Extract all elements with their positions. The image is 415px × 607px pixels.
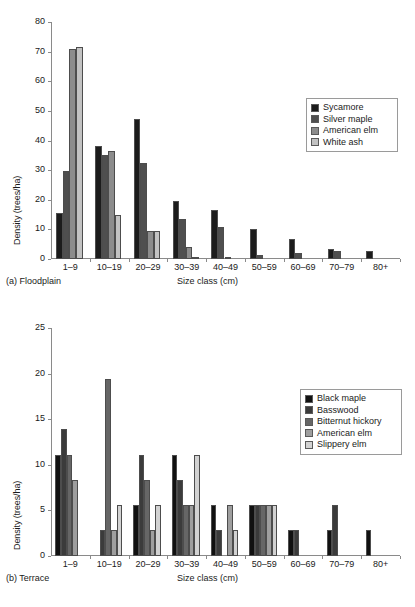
y-tick-label: 70 — [15, 46, 45, 56]
y-tick-mark — [48, 328, 51, 329]
legend-swatch-icon — [311, 138, 319, 146]
bar — [56, 213, 63, 259]
legend-b: Black mapleBasswoodBitternut hickoryAmer… — [300, 389, 402, 455]
legend-swatch-icon — [305, 395, 313, 403]
bar — [211, 210, 218, 259]
y-tick-label: 25 — [15, 322, 45, 332]
y-tick-mark — [48, 510, 51, 511]
bar — [295, 253, 302, 259]
y-axis-title-a: Density (trees/ha) — [12, 176, 22, 245]
y-tick-label: 15 — [15, 413, 45, 423]
x-tick-mark — [400, 259, 401, 262]
y-tick-label: 60 — [15, 75, 45, 85]
bar — [332, 505, 338, 556]
legend-item: Bitternut hickory — [305, 416, 396, 428]
y-axis-title-b: Density (trees/ha) — [12, 481, 22, 550]
bar — [173, 201, 180, 259]
x-tick-label: 1–9 — [51, 559, 90, 569]
bar — [102, 155, 109, 259]
bar — [69, 49, 76, 259]
bar — [134, 119, 141, 259]
y-tick-label: 10 — [15, 459, 45, 469]
x-tick-label: 60–69 — [284, 559, 323, 569]
y-tick-mark — [48, 259, 51, 260]
bar — [218, 227, 225, 259]
bar — [225, 257, 232, 259]
x-tick-label: 40–49 — [206, 559, 245, 569]
legend-label: Basswood — [317, 406, 359, 415]
y-tick-label: 80 — [15, 16, 45, 26]
x-tick-label: 30–39 — [167, 559, 206, 569]
legend-swatch-icon — [305, 441, 313, 449]
legend-swatch-icon — [305, 406, 313, 414]
bar — [366, 530, 372, 556]
legend-label: American elm — [323, 126, 378, 135]
y-tick-label: 5 — [15, 504, 45, 514]
chart-panel-floodplain: Density (trees/ha) 01020304050607080 1–9… — [0, 0, 415, 305]
bar — [117, 505, 123, 556]
y-tick-label: 0 — [15, 550, 45, 560]
bar — [72, 480, 78, 556]
y-tick-mark — [48, 141, 51, 142]
x-tick-label: 10–19 — [90, 262, 129, 272]
x-tick-label: 40–49 — [206, 262, 245, 272]
bar — [115, 215, 122, 259]
y-tick-mark — [48, 556, 51, 557]
bar — [63, 171, 70, 259]
bar — [272, 505, 278, 556]
x-tick-label: 50–59 — [245, 262, 284, 272]
x-tick-label: 60–69 — [284, 262, 323, 272]
legend-a: SycamoreSilver mapleAmerican elmWhite as… — [306, 98, 398, 152]
bar — [76, 47, 83, 259]
y-tick-mark — [48, 52, 51, 53]
legend-item: Sycamore — [311, 102, 392, 114]
x-tick-label: 70–79 — [322, 559, 361, 569]
y-tick-mark — [48, 229, 51, 230]
y-tick-label: 20 — [15, 368, 45, 378]
bar — [194, 455, 200, 556]
legend-swatch-icon — [305, 418, 313, 426]
bar — [140, 163, 147, 259]
bar — [108, 151, 115, 259]
bar — [179, 219, 186, 259]
panel-caption-a: (a) Floodplain — [6, 276, 61, 286]
y-tick-mark — [48, 22, 51, 23]
y-tick-mark — [48, 170, 51, 171]
bar — [155, 505, 161, 556]
y-tick-label: 20 — [15, 194, 45, 204]
bar — [147, 231, 154, 259]
legend-item: Black maple — [305, 393, 396, 405]
bar — [294, 530, 300, 556]
y-tick-label: 30 — [15, 164, 45, 174]
y-tick-label: 40 — [15, 135, 45, 145]
bar — [186, 247, 193, 259]
y-tick-mark — [48, 419, 51, 420]
x-tick-label: 80+ — [361, 559, 400, 569]
legend-item: American elm — [305, 428, 396, 440]
legend-swatch-icon — [311, 115, 319, 123]
x-tick-label: 50–59 — [245, 559, 284, 569]
legend-swatch-icon — [311, 104, 319, 112]
bar — [233, 530, 239, 556]
bar — [154, 231, 161, 259]
legend-item: Basswood — [305, 405, 396, 417]
bar — [250, 229, 257, 259]
x-tick-mark — [400, 556, 401, 559]
y-tick-label: 10 — [15, 223, 45, 233]
legend-label: White ash — [323, 138, 363, 147]
legend-item: American elm — [311, 125, 392, 137]
legend-label: Sycamore — [323, 103, 364, 112]
bar — [257, 255, 264, 259]
legend-label: Bitternut hickory — [317, 417, 382, 426]
legend-swatch-icon — [305, 429, 313, 437]
legend-item: Silver maple — [311, 114, 392, 126]
bar — [366, 251, 373, 259]
bar — [105, 379, 111, 556]
bar — [289, 239, 296, 259]
x-tick-label: 30–39 — [167, 262, 206, 272]
x-tick-label: 10–19 — [90, 559, 129, 569]
x-tick-label: 80+ — [361, 262, 400, 272]
panel-caption-b: (b) Terrace — [6, 573, 49, 583]
y-tick-label: 50 — [15, 105, 45, 115]
legend-label: American elm — [317, 429, 372, 438]
